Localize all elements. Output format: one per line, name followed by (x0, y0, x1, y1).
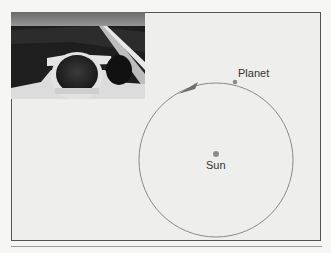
caption-divider (11, 246, 322, 247)
planet-dot (233, 80, 238, 85)
sun-label: Sun (206, 159, 226, 171)
direction-arrow-icon (178, 82, 198, 94)
orbit-diagram (0, 0, 331, 253)
sun-dot (213, 151, 219, 157)
planet-label: Planet (238, 67, 269, 79)
